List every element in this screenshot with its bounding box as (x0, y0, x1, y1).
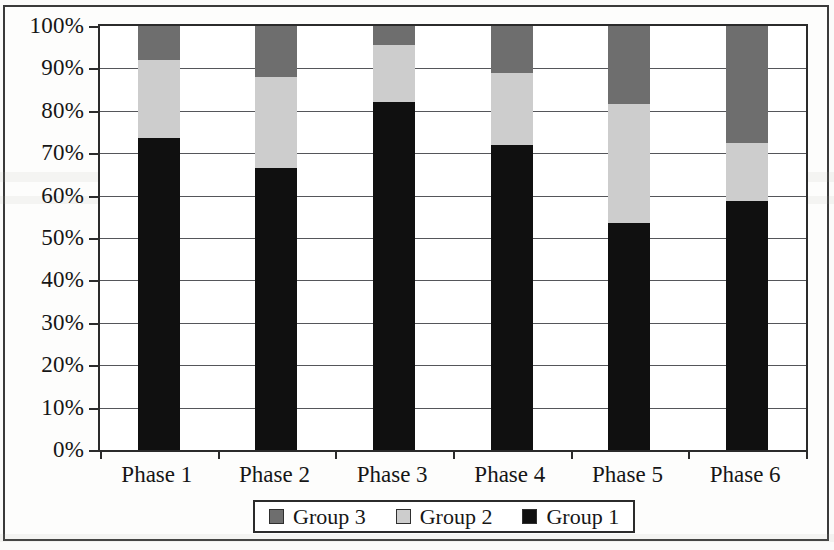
y-axis-tick (89, 365, 98, 367)
y-axis-tick-label: 30% (41, 310, 84, 336)
y-axis-tick (89, 196, 98, 198)
bar-segment-group-3[interactable] (373, 26, 415, 45)
x-axis-label: Phase 6 (686, 462, 804, 488)
y-axis-tick (89, 323, 98, 325)
stacked-bar[interactable] (491, 26, 533, 450)
legend-label: Group 3 (293, 506, 366, 528)
stacked-bar[interactable] (726, 26, 768, 450)
x-axis-label: Phase 2 (216, 462, 334, 488)
legend-entry[interactable]: Group 3 (269, 506, 366, 528)
y-axis-tick (89, 26, 98, 28)
y-axis-tick (89, 238, 98, 240)
figure-container: 0%10%20%30%40%50%60%70%80%90%100% Phase … (0, 0, 834, 550)
x-axis-tick (335, 450, 337, 459)
bar-segment-group-3[interactable] (491, 26, 533, 73)
y-axis-tick-label: 40% (41, 267, 84, 293)
bar-slot (453, 26, 571, 450)
bar-segment-group-3[interactable] (726, 26, 768, 143)
y-axis-tick-label: 50% (41, 225, 84, 251)
bar-slot (688, 26, 806, 450)
stacked-bar[interactable] (255, 26, 297, 450)
y-axis-tick-label: 100% (30, 13, 84, 39)
stacked-bar[interactable] (608, 26, 650, 450)
y-axis-tick-label: 10% (41, 395, 84, 421)
stacked-bar[interactable] (138, 26, 180, 450)
y-axis-tick (89, 280, 98, 282)
legend-label: Group 2 (420, 506, 493, 528)
x-axis-tick (806, 450, 808, 459)
x-axis-tick (100, 450, 102, 459)
y-axis-tick (89, 408, 98, 410)
y-axis-tick (89, 68, 98, 70)
x-axis-label: Phase 5 (569, 462, 687, 488)
stacked-bar[interactable] (373, 26, 415, 450)
y-axis-tick-label: 90% (41, 55, 84, 81)
bar-segment-group-1[interactable] (373, 102, 415, 450)
bar-segment-group-2[interactable] (491, 73, 533, 145)
bar-segment-group-3[interactable] (608, 26, 650, 104)
bar-slot (218, 26, 336, 450)
bar-slot (571, 26, 689, 450)
bar-slot (100, 26, 218, 450)
bar-segment-group-1[interactable] (255, 168, 297, 450)
y-axis-tick (89, 153, 98, 155)
legend-color-swatch (269, 509, 284, 524)
bar-segment-group-1[interactable] (138, 138, 180, 450)
bar-segment-group-1[interactable] (726, 201, 768, 450)
bar-slot (335, 26, 453, 450)
legend-label: Group 1 (546, 506, 619, 528)
bar-segment-group-2[interactable] (726, 143, 768, 202)
y-axis-tick (89, 111, 98, 113)
bar-segment-group-2[interactable] (373, 45, 415, 102)
legend-color-swatch (396, 509, 411, 524)
legend-entry[interactable]: Group 1 (522, 506, 619, 528)
x-axis-tick (218, 450, 220, 459)
bar-segment-group-3[interactable] (255, 26, 297, 77)
bar-segment-group-2[interactable] (255, 77, 297, 168)
chart-legend[interactable]: Group 3Group 2Group 1 (253, 500, 635, 533)
legend-color-swatch (522, 509, 537, 524)
x-axis-tick (453, 450, 455, 459)
bar-segment-group-1[interactable] (491, 145, 533, 450)
bar-segment-group-3[interactable] (138, 26, 180, 60)
x-axis-tick (688, 450, 690, 459)
x-axis-label: Phase 4 (451, 462, 569, 488)
y-axis-tick (89, 450, 98, 452)
x-axis-label: Phase 3 (333, 462, 451, 488)
bars-group (100, 26, 806, 450)
y-axis-tick-label: 0% (53, 437, 84, 463)
y-axis-tick-label: 60% (41, 183, 84, 209)
y-axis-tick-label: 80% (41, 98, 84, 124)
y-axis-tick-label: 70% (41, 140, 84, 166)
x-axis-tick (571, 450, 573, 459)
bar-segment-group-2[interactable] (608, 104, 650, 223)
bar-segment-group-2[interactable] (138, 60, 180, 138)
legend-entry[interactable]: Group 2 (396, 506, 493, 528)
y-axis-tick-label: 20% (41, 352, 84, 378)
bar-segment-group-1[interactable] (608, 223, 650, 450)
plot-area: 0%10%20%30%40%50%60%70%80%90%100% (98, 24, 808, 452)
x-axis-label: Phase 1 (98, 462, 216, 488)
